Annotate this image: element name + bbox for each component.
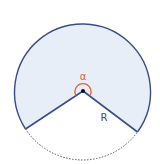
angle-label: α [80, 71, 87, 82]
radius-label: R [101, 112, 108, 123]
dashed-arc [26, 129, 138, 160]
sector-diagram: α R [0, 0, 160, 164]
center-dot [81, 89, 85, 93]
